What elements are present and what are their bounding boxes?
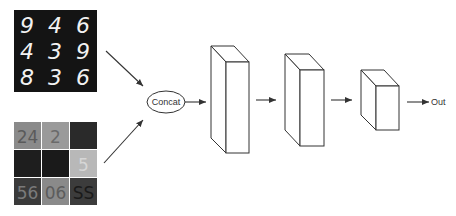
mnist-digit: 3 [48, 65, 62, 90]
mnist-digit: 8 [20, 65, 34, 90]
output-label: Out [431, 97, 446, 107]
svhn-tile [70, 122, 97, 149]
svg-text:5: 5 [78, 155, 89, 175]
layer-2-block [285, 54, 324, 146]
svg-text:56: 56 [17, 183, 39, 203]
svhn-tile [42, 150, 69, 177]
mnist-input-grid: 946439836 [14, 10, 97, 92]
mnist-digit: 6 [76, 65, 90, 90]
svhn-tile: SS [70, 178, 97, 205]
svg-text:2: 2 [50, 127, 61, 147]
svhn-tile: 2 [42, 122, 69, 149]
mnist-digit: 4 [48, 13, 62, 38]
svg-text:06: 06 [45, 183, 67, 203]
arrow-mnist-to-concat [106, 51, 143, 86]
svg-text:24: 24 [17, 127, 39, 147]
layer-3-block [361, 70, 399, 130]
mnist-digit: 9 [76, 39, 90, 64]
arrow-svhn-to-concat [104, 120, 143, 163]
mnist-digit: 9 [20, 13, 34, 38]
svhn-tile: 5 [70, 150, 97, 177]
svhn-input-grid: 24255606SS [14, 121, 98, 205]
svhn-tile: 56 [14, 178, 41, 205]
mnist-digit: 6 [76, 13, 90, 38]
svhn-tile: 06 [42, 178, 69, 205]
concat-node: Concat [147, 91, 185, 113]
svhn-tile [14, 150, 41, 177]
svhn-tile: 24 [14, 122, 41, 149]
layer-1-block [211, 46, 249, 153]
architecture-diagram: 946439836 24255606SS Concat Out [0, 0, 456, 216]
svg-text:SS: SS [73, 183, 95, 203]
concat-label: Concat [152, 97, 181, 107]
mnist-digit: 3 [48, 39, 62, 64]
mnist-digit: 4 [20, 39, 34, 64]
